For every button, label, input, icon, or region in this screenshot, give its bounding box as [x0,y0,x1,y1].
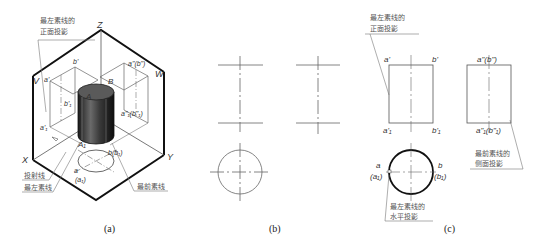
axis-y-label: Y [167,152,174,162]
plane-v-label: V [33,76,40,86]
c-point-b1: (b₁) [434,172,447,181]
point-a-prime: a' [44,76,50,83]
c-point-a: a [376,161,381,170]
point-b-b1: b(b₁) [108,149,123,157]
axis-x-label: X [21,155,29,165]
point-A1: A₁ [77,140,86,149]
caption-b: (b) [269,223,281,235]
panel-a-isometric: Z X Y V W a' b' a"(b") b'₁ a'₁ a"₁(b"₁) … [21,16,174,235]
c-annotation-frontmost-side-1: 最前素线的 [475,149,510,158]
point-a1-dbl-b1: a"₁(b"₁) [121,110,143,118]
c-annotation-leftmost-horizontal-1: 最左素线的 [390,202,425,211]
cylinder-solid [78,84,114,144]
c-point-a1: (a₁) [370,172,383,181]
c-annotation-frontmost-side-2: 侧面投影 [475,159,503,168]
c-point-a-dbl-b-dbl: a"(b") [477,55,497,64]
c-point-b: b [438,161,443,170]
annotation-leftmost-line: 最左素线 [24,183,52,192]
annotation-frontmost-line: 最前素线 [137,182,165,191]
caption-c: (c) [444,223,455,235]
c-annotation-leftmost-horizontal-2: 水平投影 [390,212,418,221]
c-point-b1-prime: b'₁ [432,126,441,135]
point-b-prime: b' [73,58,79,65]
c-point-a1-prime: a'₁ [383,126,392,135]
annotation-leftmost-front-1: 最左素线的 [40,16,75,25]
c-point-a-prime: a' [384,55,390,64]
c-point-b-prime: b' [432,55,438,64]
c-point-a1-dbl-b1-dbl: a"₁(b"₁) [476,126,501,135]
annotation-projection-line: 投射线 [24,171,45,180]
c-annotation-leftmost-front-2: 正面投影 [370,24,398,33]
point-B: B [108,77,114,86]
point-a: a [74,167,78,174]
axis-z-label: Z [96,20,103,30]
caption-a: (a) [104,223,115,235]
frame-v-plane [33,30,164,76]
point-a1: (a₁) [75,176,86,184]
c-annotation-leftmost-front-1: 最左素线的 [370,13,405,22]
point-a-dbl-b: a"(b") [128,60,145,68]
panel-b-axes-only [210,56,340,201]
point-b1-prime: b'₁ [64,100,72,107]
projection-diagram: Z X Y V W a' b' a"(b") b'₁ a'₁ a"₁(b"₁) … [0,0,539,248]
panel-c-three-view: a' b' a'₁ b'₁ a"(b") a"₁(b"₁) a (a₁) b (… [365,13,523,235]
point-A: A [85,92,91,101]
point-a1-prime: a'₁ [40,124,48,131]
annotation-leftmost-front-2: 正面投影 [40,27,68,36]
